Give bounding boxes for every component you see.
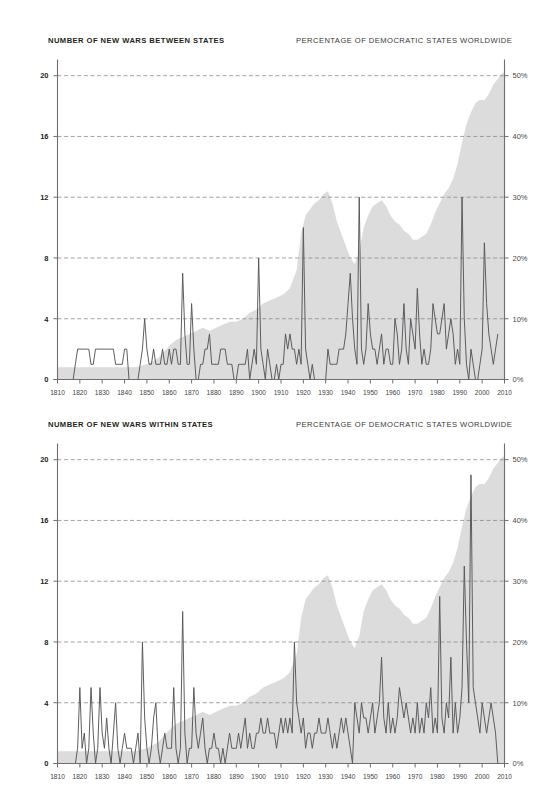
tick-label-left: 0 [44,375,48,384]
tick-label-x: 1870 [184,773,199,780]
tick-label-x: 1850 [140,773,155,780]
tick-label-x: 2000 [475,389,490,396]
chart-top-title-left: NUMBER OF NEW WARS BETWEEN STATES [48,36,225,45]
tick-label-left: 4 [44,699,49,708]
tick-label-left: 0 [44,759,48,768]
tick-label-x: 1920 [296,773,311,780]
chart-bottom-titles: NUMBER OF NEW WARS WITHIN STATES PERCENT… [0,420,548,436]
chart-bottom-plot-area: 0481216200%10%20%30%40%50%18101820183018… [0,436,548,792]
tick-label-x: 1880 [207,389,222,396]
page-root: NUMBER OF NEW WARS BETWEEN STATES PERCEN… [0,0,548,792]
tick-label-x: 2010 [497,773,512,780]
tick-label-left: 12 [40,193,48,202]
tick-label-x: 1960 [385,773,400,780]
chart-top-titles: NUMBER OF NEW WARS BETWEEN STATES PERCEN… [0,36,548,52]
tick-label-x: 1950 [363,773,378,780]
tick-label-left: 16 [40,516,48,525]
tick-label-x: 1890 [229,389,244,396]
chart-bottom-title-right: PERCENTAGE OF DEMOCRATIC STATES WORLDWID… [296,420,512,429]
tick-label-right: 50% [513,455,528,464]
chart-wars-between-states: NUMBER OF NEW WARS BETWEEN STATES PERCEN… [0,36,548,416]
tick-label-x: 1990 [452,773,467,780]
tick-label-right: 40% [513,132,528,141]
chart-top-title-right: PERCENTAGE OF DEMOCRATIC STATES WORLDWID… [296,36,512,45]
tick-label-left: 8 [44,254,48,263]
tick-label-x: 1840 [117,389,132,396]
tick-label-left: 16 [40,132,48,141]
tick-label-x: 1970 [408,389,423,396]
tick-label-right: 40% [513,516,528,525]
tick-label-x: 1820 [73,389,88,396]
tick-label-right: 30% [513,577,528,586]
tick-label-right: 0% [513,375,524,384]
tick-label-right: 30% [513,193,528,202]
tick-label-x: 1930 [318,389,333,396]
tick-label-x: 1880 [207,773,222,780]
chart-bottom-svg: 0481216200%10%20%30%40%50%18101820183018… [0,436,548,792]
tick-label-left: 4 [44,315,49,324]
tick-label-x: 1830 [95,773,110,780]
tick-label-x: 1950 [363,389,378,396]
tick-label-x: 1970 [408,773,423,780]
tick-label-right: 0% [513,759,524,768]
tick-label-x: 1840 [117,773,132,780]
tick-label-right: 10% [513,315,528,324]
tick-label-x: 1850 [140,389,155,396]
tick-label-x: 1960 [385,389,400,396]
chart-bottom-title-left: NUMBER OF NEW WARS WITHIN STATES [48,420,213,429]
tick-label-x: 1860 [162,773,177,780]
tick-label-x: 2000 [475,773,490,780]
tick-label-x: 2010 [497,389,512,396]
tick-label-x: 1830 [95,389,110,396]
tick-label-x: 1980 [430,773,445,780]
tick-label-x: 1990 [452,389,467,396]
tick-label-x: 1940 [341,773,356,780]
tick-label-x: 1900 [251,773,266,780]
tick-label-right: 20% [513,638,528,647]
tick-label-x: 1890 [229,773,244,780]
tick-label-x: 1870 [184,389,199,396]
chart-top-svg: 0481216200%10%20%30%40%50%18101820183018… [0,52,548,416]
tick-label-right: 20% [513,254,528,263]
tick-label-x: 1810 [50,389,65,396]
tick-label-left: 20 [40,71,48,80]
tick-label-right: 10% [513,699,528,708]
tick-label-x: 1940 [341,389,356,396]
tick-label-x: 1980 [430,389,445,396]
tick-label-x: 1810 [50,773,65,780]
tick-label-right: 50% [513,71,528,80]
tick-label-x: 1930 [318,773,333,780]
tick-label-x: 1910 [274,389,289,396]
tick-label-x: 1820 [73,773,88,780]
tick-label-x: 1910 [274,773,289,780]
tick-label-x: 1920 [296,389,311,396]
tick-label-left: 20 [40,455,48,464]
chart-wars-within-states: NUMBER OF NEW WARS WITHIN STATES PERCENT… [0,420,548,792]
tick-label-left: 12 [40,577,48,586]
tick-label-x: 1860 [162,389,177,396]
tick-label-x: 1900 [251,389,266,396]
chart-top-plot-area: 0481216200%10%20%30%40%50%18101820183018… [0,52,548,416]
tick-label-left: 8 [44,638,48,647]
